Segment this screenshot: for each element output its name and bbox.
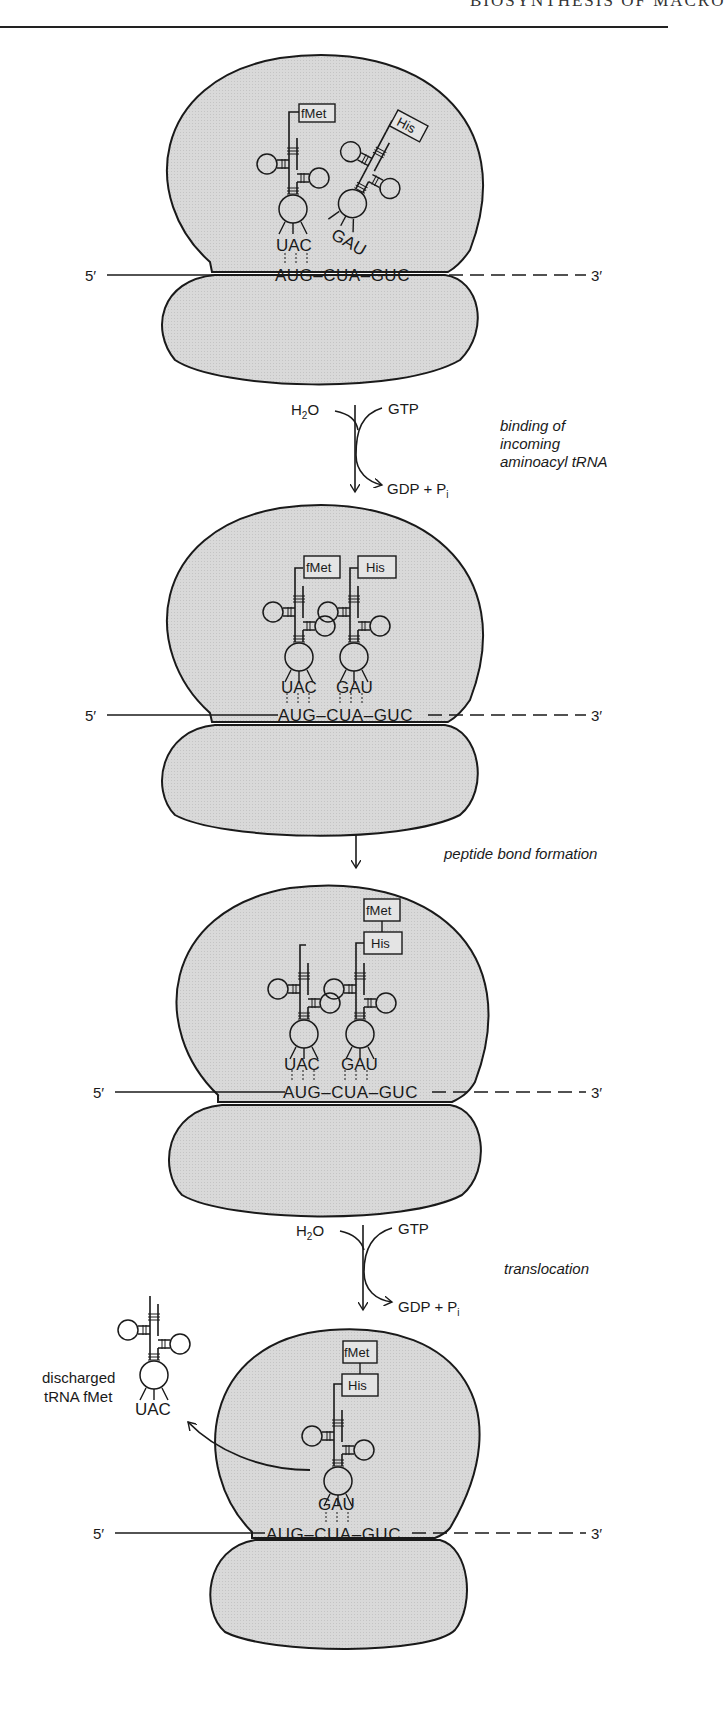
svg-text:UAC: UAC: [281, 678, 317, 697]
panel-after-translocation: 5′ 3′ AUG–CUA–GUC His fMet GAU UAC disch…: [42, 1296, 602, 1649]
svg-text:AUG–CUA–GUC: AUG–CUA–GUC: [278, 706, 413, 725]
svg-text:UAC: UAC: [284, 1055, 320, 1074]
svg-text:AUG–CUA–GUC: AUG–CUA–GUC: [283, 1083, 418, 1102]
step-translocation: H2O GTP GDP + Pi translocation: [296, 1220, 589, 1318]
step-binding: H2O GTP GDP + Pi binding of incoming ami…: [291, 400, 608, 500]
svg-text:GDP + Pi: GDP + Pi: [387, 480, 449, 500]
svg-text:His: His: [348, 1378, 367, 1393]
svg-text:3′: 3′: [591, 1525, 602, 1542]
svg-text:GTP: GTP: [398, 1220, 429, 1237]
svg-text:binding of: binding of: [500, 417, 567, 434]
panel-after-binding: 5′ 3′ AUG–CUA–GUC fMet UAC His GAU: [85, 505, 602, 836]
svg-text:GDP + Pi: GDP + Pi: [398, 1298, 460, 1318]
svg-text:aminoacyl tRNA: aminoacyl tRNA: [500, 453, 608, 470]
step-peptide-bond: peptide bond formation: [356, 835, 597, 868]
svg-text:GAU: GAU: [318, 1495, 355, 1514]
svg-text:AUG–CUA–GUC: AUG–CUA–GUC: [275, 266, 410, 285]
svg-text:fMet: fMet: [366, 903, 392, 918]
svg-text:His: His: [366, 560, 385, 575]
svg-text:GAU: GAU: [341, 1055, 378, 1074]
svg-text:His: His: [371, 936, 390, 951]
svg-text:incoming: incoming: [500, 435, 561, 452]
panel-after-peptide-bond: 5′ 3′ AUG–CUA–GUC UAC His fMet GAU: [93, 885, 602, 1216]
svg-text:translocation: translocation: [504, 1260, 589, 1277]
svg-text:discharged: discharged: [42, 1369, 115, 1386]
svg-text:3′: 3′: [591, 1084, 602, 1101]
svg-text:H2O: H2O: [296, 1222, 324, 1242]
panel-initial: 5′ 3′ AUG–CUA–GUC fMet UAC His GAU: [85, 55, 602, 384]
svg-text:3′: 3′: [591, 267, 602, 284]
svg-text:5′: 5′: [93, 1084, 104, 1101]
svg-text:5′: 5′: [85, 707, 96, 724]
svg-text:5′: 5′: [85, 267, 96, 284]
svg-text:fMet: fMet: [301, 106, 327, 121]
svg-text:GAU: GAU: [336, 678, 373, 697]
svg-text:AUG–CUA–GUC: AUG–CUA–GUC: [266, 1525, 401, 1544]
svg-text:GTP: GTP: [388, 400, 419, 417]
svg-text:H2O: H2O: [291, 401, 319, 421]
svg-text:5′: 5′: [93, 1525, 104, 1542]
svg-text:fMet: fMet: [344, 1345, 370, 1360]
svg-text:UAC: UAC: [135, 1400, 171, 1419]
svg-text:3′: 3′: [591, 707, 602, 724]
svg-text:tRNA fMet: tRNA fMet: [44, 1388, 113, 1405]
svg-text:UAC: UAC: [276, 236, 312, 255]
svg-text:peptide bond formation: peptide bond formation: [443, 845, 597, 862]
svg-text:fMet: fMet: [306, 560, 332, 575]
